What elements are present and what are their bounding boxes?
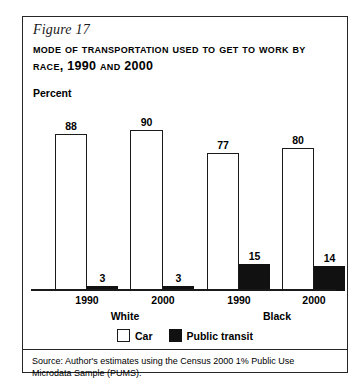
bar-value-label: 90 [141,116,153,128]
legend-item-car: Car [117,329,153,342]
bar-value-label: 80 [292,134,304,146]
bar-value-label: 88 [65,120,77,132]
bar-white-2000-car: 90 [130,130,163,291]
x-group-label-black: Black [263,310,291,322]
figure-frame: Figure 17 Mode of Transportation Used to… [22,16,348,373]
figure-number: Figure 17 [33,22,90,38]
x-group-label-white: White [111,310,140,322]
y-axis-label: Percent [33,87,72,99]
x-tick-label-3: 2000 [302,294,325,306]
legend-label: Car [135,330,153,342]
legend-swatch-car-icon [117,329,130,342]
legend-label: Public transit [187,330,254,342]
bar-value-label: 3 [176,272,182,284]
plot-area: 88390377158014 [31,105,341,291]
chart-legend: CarPublic transit [23,329,347,342]
source-note: Source: Author's estimates using the Cen… [32,355,324,379]
source-divider [23,349,347,350]
bar-white-1990-car: 88 [55,134,87,291]
x-axis-line [31,289,336,291]
bar-black-1990-transit: 15 [239,264,270,291]
x-tick-label-1: 2000 [151,294,174,306]
bar-value-label: 77 [217,139,229,151]
x-tick-label-0: 1990 [75,294,98,306]
bar-black-1990-car: 77 [207,153,239,291]
legend-swatch-transit-icon [169,329,182,342]
bar-value-label: 3 [100,272,106,284]
bar-black-2000-transit: 14 [314,266,345,291]
x-tick-label-2: 1990 [227,294,250,306]
bar-value-label: 15 [249,250,261,262]
legend-item-transit: Public transit [169,329,254,342]
figure-title: Mode of Transportation Used to Get to Wo… [33,41,337,75]
bar-black-2000-car: 80 [282,148,314,291]
bar-value-label: 14 [324,252,336,264]
